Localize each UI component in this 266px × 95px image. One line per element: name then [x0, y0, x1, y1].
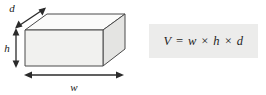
volume-formula-panel: V = w × h × d — [149, 24, 258, 58]
width-arrow — [24, 72, 124, 79]
height-arrow — [13, 28, 20, 68]
volume-formula-text: V = w × h × d — [149, 24, 258, 58]
height-label: h — [4, 42, 10, 54]
width-label: w — [70, 81, 78, 93]
depth-label: d — [9, 2, 15, 14]
box-front-face — [25, 30, 103, 66]
